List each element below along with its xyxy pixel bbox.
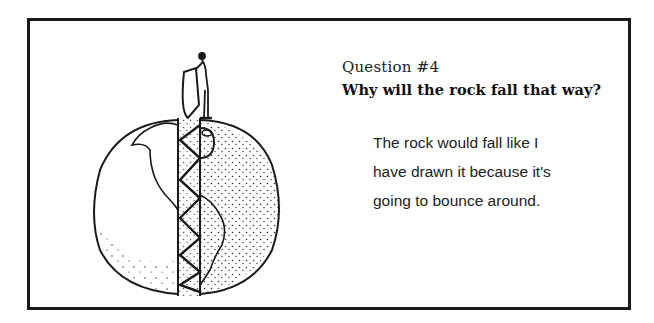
answer-line: going to bounce around. bbox=[373, 186, 603, 215]
question-text: Why will the rock fall that way? bbox=[342, 81, 601, 98]
answer-text: The rock would fall like I have drawn it… bbox=[373, 128, 603, 215]
rock bbox=[183, 68, 199, 118]
tunnel-strip bbox=[178, 118, 200, 296]
question-number: Question #4 bbox=[342, 58, 439, 76]
answer-line: have drawn it because it's bbox=[373, 157, 603, 186]
answer-line: The rock would fall like I bbox=[373, 128, 603, 157]
